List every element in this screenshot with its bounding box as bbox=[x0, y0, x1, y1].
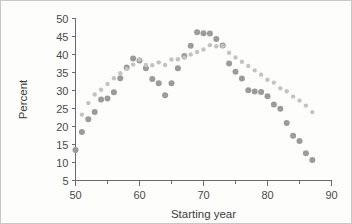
data-point bbox=[221, 44, 225, 48]
y-tick-label: 5 bbox=[62, 175, 68, 187]
data-point bbox=[253, 68, 257, 72]
data-point bbox=[277, 106, 283, 112]
data-point bbox=[233, 69, 239, 75]
data-point bbox=[278, 86, 282, 90]
data-point bbox=[304, 103, 308, 107]
data-point bbox=[246, 64, 250, 68]
x-axis-title: Starting year bbox=[171, 208, 236, 220]
data-point bbox=[169, 80, 175, 86]
data-point bbox=[130, 55, 136, 61]
data-point bbox=[245, 87, 251, 93]
y-tick-label: 10 bbox=[56, 157, 68, 169]
y-tick-label: 40 bbox=[56, 49, 68, 61]
data-point bbox=[272, 80, 276, 84]
data-point bbox=[189, 52, 193, 56]
data-point bbox=[162, 92, 168, 98]
data-point bbox=[214, 44, 218, 48]
y-tick-label: 50 bbox=[56, 13, 68, 25]
data-point bbox=[201, 47, 205, 51]
data-point bbox=[144, 63, 148, 67]
data-point bbox=[111, 89, 117, 95]
data-point bbox=[233, 55, 237, 59]
data-point bbox=[259, 72, 263, 76]
y-tick-label: 20 bbox=[56, 121, 68, 133]
data-point bbox=[182, 56, 186, 60]
data-point bbox=[240, 60, 244, 64]
data-point bbox=[156, 80, 162, 86]
data-point bbox=[86, 101, 90, 105]
data-point bbox=[297, 138, 303, 144]
data-point bbox=[105, 95, 111, 101]
data-point bbox=[201, 30, 207, 36]
y-tick-label: 35 bbox=[56, 67, 68, 79]
data-point bbox=[271, 102, 277, 108]
data-point bbox=[169, 57, 173, 61]
data-point bbox=[105, 82, 109, 86]
data-point bbox=[226, 61, 232, 67]
data-point bbox=[194, 29, 200, 35]
data-point bbox=[303, 150, 309, 156]
x-tick-label: 80 bbox=[261, 189, 273, 201]
y-axis-title: Percent bbox=[17, 79, 29, 119]
x-tick-label: 90 bbox=[325, 189, 337, 201]
data-point bbox=[310, 110, 314, 114]
data-point bbox=[227, 51, 231, 55]
figure-frame: 51015202530354045505060708090Starting ye… bbox=[0, 0, 352, 224]
data-point bbox=[112, 76, 116, 80]
data-point bbox=[207, 31, 213, 37]
data-point bbox=[291, 94, 295, 98]
data-point bbox=[137, 57, 141, 61]
data-point bbox=[92, 109, 98, 115]
data-point bbox=[176, 57, 180, 61]
series-a-group bbox=[73, 29, 316, 163]
series-b-group bbox=[80, 43, 315, 117]
data-point bbox=[131, 62, 135, 66]
y-tick-label: 25 bbox=[56, 103, 68, 115]
data-point bbox=[125, 67, 129, 71]
data-point bbox=[79, 129, 85, 135]
data-point bbox=[284, 120, 290, 126]
data-point bbox=[163, 63, 167, 67]
data-point bbox=[188, 43, 194, 49]
y-tick-label: 45 bbox=[56, 31, 68, 43]
data-point bbox=[85, 116, 91, 122]
data-point bbox=[98, 97, 104, 103]
y-tick-label: 15 bbox=[56, 139, 68, 151]
data-point bbox=[99, 88, 103, 92]
data-point bbox=[80, 112, 84, 116]
data-point bbox=[258, 89, 264, 95]
data-point bbox=[285, 89, 289, 93]
data-point bbox=[93, 92, 97, 96]
data-point bbox=[150, 63, 154, 67]
data-point bbox=[265, 93, 271, 99]
data-point bbox=[149, 76, 155, 82]
data-point bbox=[73, 147, 79, 153]
data-point bbox=[309, 157, 315, 163]
scatter-chart: 51015202530354045505060708090Starting ye… bbox=[1, 1, 352, 224]
data-point bbox=[252, 89, 258, 95]
data-point bbox=[265, 78, 269, 82]
x-tick-label: 70 bbox=[197, 189, 209, 201]
data-point bbox=[213, 36, 219, 42]
data-point bbox=[239, 76, 245, 82]
data-point bbox=[118, 71, 122, 75]
data-point bbox=[195, 50, 199, 54]
data-point bbox=[157, 60, 161, 64]
data-point bbox=[208, 43, 212, 47]
data-point bbox=[297, 98, 301, 102]
data-point bbox=[175, 65, 181, 71]
x-tick-label: 50 bbox=[69, 189, 81, 201]
data-point bbox=[117, 75, 123, 81]
y-tick-label: 30 bbox=[56, 85, 68, 97]
x-tick-label: 60 bbox=[133, 189, 145, 201]
data-point bbox=[290, 133, 296, 139]
